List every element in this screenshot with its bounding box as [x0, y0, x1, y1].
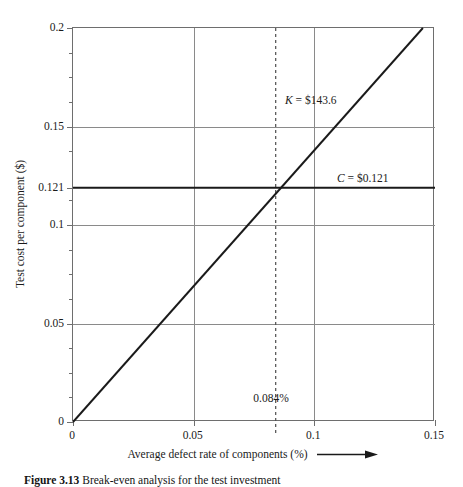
x-axis-title: Average defect rate of components (%) [127, 448, 307, 460]
x-tick-0-15 [435, 420, 436, 426]
y-tick-label-0-1: 0.1 [50, 218, 64, 230]
y-tick-label-0-15: 0.15 [44, 120, 64, 132]
annotation-k-text: = $143.6 [296, 94, 337, 106]
x-axis-title-row: Average defect rate of components (%) [72, 448, 434, 460]
x-tick-label-0-15: 0.15 [424, 429, 444, 441]
x-tick-label-0-1: 0.1 [306, 429, 320, 441]
right-arrow-icon [317, 449, 379, 460]
plot-area: K = $143.6 C = $0.121 0.084% [72, 27, 434, 421]
annotation-c-value: C = $0.121 [337, 172, 389, 184]
x-tick-label-0-05: 0.05 [183, 429, 203, 441]
x-tick-label-0: 0 [69, 429, 75, 441]
test-cost-diagonal-line [73, 28, 423, 422]
figure-caption-label: Figure 3.13 [24, 474, 79, 486]
annotation-k-symbol: K [285, 94, 293, 106]
y-axis-title: Test cost per component ($) [14, 27, 26, 421]
annotation-break-even-rate: 0.084% [253, 392, 288, 404]
annotation-c-text: = $0.121 [348, 172, 389, 184]
annotation-c-symbol: C [337, 172, 345, 184]
y-tick-label-0-2: 0.2 [50, 21, 64, 33]
figure-caption-text: Break-even analysis for the test investm… [82, 474, 280, 486]
y-tick-label-0-121: 0.121 [38, 181, 64, 193]
annotation-k-value: K = $143.6 [285, 94, 337, 106]
figure-caption: Figure 3.13 Break-even analysis for the … [24, 474, 444, 487]
series-layer [73, 28, 435, 422]
y-tick-label-0: 0 [58, 415, 64, 427]
y-tick-label-0-05: 0.05 [44, 317, 64, 329]
